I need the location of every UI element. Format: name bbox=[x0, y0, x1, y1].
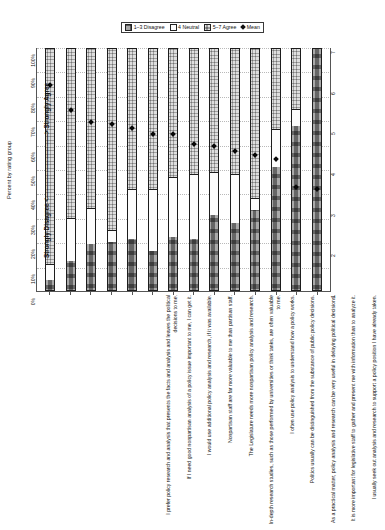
segment-agree bbox=[190, 49, 198, 174]
bar-slot[interactable] bbox=[225, 48, 246, 291]
mean-diamond-icon bbox=[240, 25, 246, 31]
chart-legend: 1–3 Disagree 4 Neutral 5–7 Agree Mean bbox=[0, 22, 385, 33]
category-labels: I prefer policy research and analysis th… bbox=[36, 292, 330, 530]
category-label: I usually seek out analysis and research… bbox=[245, 292, 266, 530]
mean-axis-title-text: Strongly Disagree <——————————> Strongly … bbox=[44, 82, 51, 257]
stacked-bar[interactable] bbox=[168, 48, 178, 291]
segment-agree bbox=[231, 49, 239, 174]
segment-agree bbox=[292, 49, 300, 109]
agree-swatch-icon bbox=[204, 24, 211, 31]
category-label: As a practical matter, policy analysis a… bbox=[204, 292, 225, 530]
segment-neutral bbox=[128, 189, 136, 240]
segment-neutral bbox=[210, 172, 218, 215]
segment-agree bbox=[67, 49, 75, 218]
bar-slot[interactable] bbox=[307, 48, 328, 291]
legend-box: 1–3 Disagree 4 Neutral 5–7 Agree Mean bbox=[121, 22, 264, 33]
stacked-bar[interactable] bbox=[107, 48, 117, 291]
category-label-text: It is more important for legislative sta… bbox=[350, 295, 357, 527]
segment-agree bbox=[149, 49, 157, 189]
legend-label-agree: 5–7 Agree bbox=[213, 25, 237, 30]
category-label: If I need good nonpartisan analysis of a… bbox=[60, 292, 81, 530]
segment-disagree bbox=[169, 237, 177, 290]
bar-slot[interactable] bbox=[143, 48, 164, 291]
mean-tick-label: 3 bbox=[330, 214, 336, 217]
stacked-bar[interactable] bbox=[66, 48, 76, 291]
segment-disagree bbox=[87, 244, 95, 290]
segment-agree bbox=[169, 49, 177, 177]
stacked-bar[interactable] bbox=[291, 48, 301, 291]
legend-item-mean: Mean bbox=[241, 25, 259, 30]
stacked-bar[interactable] bbox=[209, 48, 219, 291]
stacked-bar[interactable] bbox=[230, 48, 240, 291]
segment-disagree bbox=[108, 242, 116, 290]
segment-disagree bbox=[313, 49, 321, 290]
segment-disagree bbox=[190, 239, 198, 290]
segment-neutral bbox=[190, 174, 198, 239]
segment-agree bbox=[87, 49, 95, 208]
category-label: The Legislature needs more nonpartisan p… bbox=[121, 292, 142, 530]
bar-slot[interactable] bbox=[163, 48, 184, 291]
category-label-text: As a practical matter, policy analysis a… bbox=[330, 295, 337, 527]
bar-slot[interactable] bbox=[204, 48, 225, 291]
legend-item-disagree: 1–3 Disagree bbox=[125, 24, 164, 31]
segment-agree bbox=[108, 49, 116, 230]
percent-axis-ticks: 0%10%20%30%40%50%60%70%80%90%100% bbox=[0, 48, 36, 292]
category-label: Overall, staff support in the Legislatur… bbox=[265, 292, 286, 530]
segment-neutral bbox=[67, 218, 75, 261]
segment-neutral bbox=[292, 109, 300, 126]
mean-tick-label: 4 bbox=[330, 173, 336, 176]
segment-agree bbox=[251, 49, 259, 198]
stacked-bar[interactable] bbox=[127, 48, 137, 291]
stacked-bar[interactable] bbox=[271, 48, 281, 291]
mean-tick-label: 2 bbox=[330, 255, 336, 258]
bar-series-container bbox=[37, 48, 330, 291]
segment-disagree bbox=[67, 261, 75, 290]
mean-tick-label: 5 bbox=[330, 133, 336, 136]
stacked-bar[interactable] bbox=[86, 48, 96, 291]
bar-slot[interactable] bbox=[61, 48, 82, 291]
segment-disagree bbox=[251, 210, 259, 290]
bar-slot[interactable] bbox=[286, 48, 307, 291]
legend-item-agree: 5–7 Agree bbox=[204, 24, 236, 31]
category-label: Legislators have all the information and… bbox=[286, 292, 307, 530]
bar-slot[interactable] bbox=[266, 48, 287, 291]
legend-item-neutral: 4 Neutral bbox=[170, 24, 200, 31]
segment-neutral bbox=[251, 198, 259, 210]
mean-tick-label: 6 bbox=[330, 92, 336, 95]
disagree-swatch-icon bbox=[125, 24, 132, 31]
stacked-bar[interactable] bbox=[189, 48, 199, 291]
category-label: Nonpartisan staff are far more valuable … bbox=[101, 292, 122, 530]
segment-disagree bbox=[128, 239, 136, 290]
category-label: Information from partisan sources is not… bbox=[307, 292, 328, 530]
chart-root: 1–3 Disagree 4 Neutral 5–7 Agree Mean Pe… bbox=[0, 0, 385, 530]
legend-label-mean: Mean bbox=[247, 25, 260, 30]
segment-disagree bbox=[272, 167, 280, 290]
bar-slot[interactable] bbox=[102, 48, 123, 291]
segment-agree bbox=[272, 49, 280, 129]
category-label: It is more important for legislative sta… bbox=[224, 292, 245, 530]
bar-slot[interactable] bbox=[122, 48, 143, 291]
segment-disagree bbox=[149, 251, 157, 290]
stacked-bar[interactable] bbox=[148, 48, 158, 291]
segment-neutral bbox=[87, 208, 95, 244]
bar-slot[interactable] bbox=[81, 48, 102, 291]
category-label: I prefer policy research and analysis th… bbox=[39, 292, 60, 530]
stacked-bar[interactable] bbox=[312, 48, 322, 291]
segment-agree bbox=[210, 49, 218, 172]
category-label: In-depth research studies, such as those… bbox=[142, 292, 163, 530]
segment-disagree bbox=[231, 223, 239, 290]
category-label: I often use policy analysis to understan… bbox=[162, 292, 183, 530]
category-label: I would use additional policy analysis a… bbox=[80, 292, 101, 530]
segment-neutral bbox=[169, 177, 177, 237]
stacked-bar[interactable] bbox=[250, 48, 260, 291]
category-label: Politics usually can be distinguished fr… bbox=[183, 292, 204, 530]
legend-label-neutral: 4 Neutral bbox=[178, 25, 199, 30]
neutral-swatch-icon bbox=[170, 24, 177, 31]
legend-label-disagree: 1–3 Disagree bbox=[134, 25, 165, 30]
bar-slot[interactable] bbox=[184, 48, 205, 291]
segment-disagree bbox=[292, 126, 300, 290]
mean-axis-ticks: 1234567 bbox=[330, 48, 385, 292]
plot-area bbox=[36, 48, 330, 292]
segment-neutral bbox=[108, 230, 116, 242]
bar-slot[interactable] bbox=[245, 48, 266, 291]
